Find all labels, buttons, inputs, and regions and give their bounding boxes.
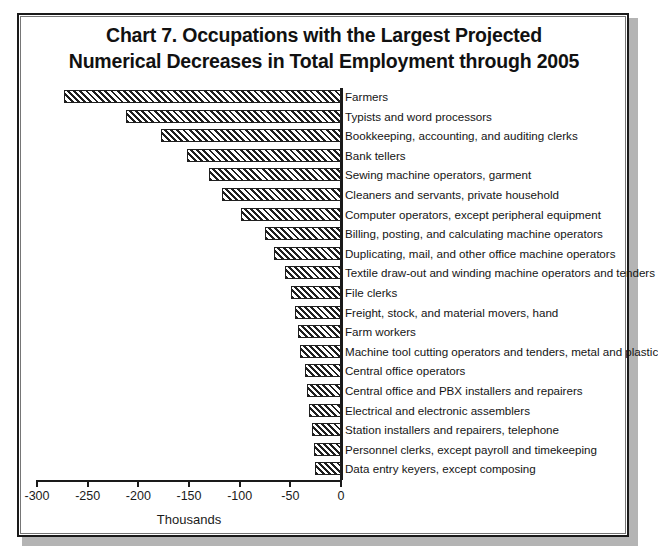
bar — [274, 247, 341, 260]
bar-row: Machine tool cutting operators and tende… — [37, 343, 341, 363]
x-tick — [289, 480, 291, 487]
bar-row: Cleaners and servants, private household — [37, 186, 341, 206]
bar-row: Data entry keyers, except composing — [37, 460, 341, 480]
bar — [315, 462, 341, 475]
bar-category-label: Sewing machine operators, garment — [345, 166, 531, 183]
bar — [241, 208, 341, 221]
bar — [300, 345, 341, 358]
bar-category-label: Cleaners and servants, private household — [345, 186, 559, 203]
bar-category-label: Station installers and repairers, teleph… — [345, 421, 559, 438]
bar-category-label: Billing, posting, and calculating machin… — [345, 225, 603, 242]
bar-category-label: Central office and PBX installers and re… — [345, 382, 583, 399]
bar-category-label: Duplicating, mail, and other office mach… — [345, 245, 615, 262]
chart-title: Chart 7. Occupations with the Largest Pr… — [30, 22, 618, 74]
bar — [161, 129, 341, 142]
bar-row: Computer operators, except peripheral eq… — [37, 206, 341, 226]
x-tick-label: -100 — [227, 489, 252, 503]
bar-row: Central office and PBX installers and re… — [37, 382, 341, 402]
bar — [209, 168, 341, 181]
x-tick — [137, 480, 139, 487]
bar-category-label: Farm workers — [345, 323, 416, 340]
bar-row: Billing, posting, and calculating machin… — [37, 225, 341, 245]
bar-category-label: Bookkeeping, accounting, and auditing cl… — [345, 127, 578, 144]
bar-row: Bank tellers — [37, 147, 341, 167]
bar-row: Duplicating, mail, and other office mach… — [37, 245, 341, 265]
chart-title-line-1: Chart 7. Occupations with the Largest Pr… — [30, 22, 618, 48]
bar — [295, 306, 341, 319]
bar-row: Textile draw-out and winding machine ope… — [37, 264, 341, 284]
bar-row: File clerks — [37, 284, 341, 304]
bar-category-label: Personnel clerks, except payroll and tim… — [345, 441, 597, 458]
x-tick — [239, 480, 241, 487]
bar — [187, 149, 341, 162]
bar — [291, 286, 341, 299]
bar-row: Personnel clerks, except payroll and tim… — [37, 441, 341, 461]
bar-category-label: Machine tool cutting operators and tende… — [345, 343, 658, 360]
bar — [265, 227, 341, 240]
bar-category-label: Freight, stock, and material movers, han… — [345, 304, 558, 321]
bar — [298, 325, 341, 338]
bar — [309, 404, 341, 417]
bar-category-label: Central office operators — [345, 362, 465, 379]
bar-row: Farm workers — [37, 323, 341, 343]
bar-row: Central office operators — [37, 362, 341, 382]
bar-category-label: Data entry keyers, except composing — [345, 460, 536, 477]
bar-row: Station installers and repairers, teleph… — [37, 421, 341, 441]
bar-row: Sewing machine operators, garment — [37, 166, 341, 186]
chart-title-line-2: Numerical Decreases in Total Employment … — [30, 48, 618, 74]
x-tick — [188, 480, 190, 487]
bar-row: Freight, stock, and material movers, han… — [37, 304, 341, 324]
x-tick-label: -150 — [176, 489, 201, 503]
bar — [285, 266, 341, 279]
x-tick-label: 0 — [338, 489, 345, 503]
x-tick-label: -250 — [75, 489, 100, 503]
bar-row: Bookkeeping, accounting, and auditing cl… — [37, 127, 341, 147]
x-tick-label: -200 — [126, 489, 151, 503]
x-axis-title: Thousands — [37, 512, 341, 527]
bar-category-label: Farmers — [345, 88, 388, 105]
bar-row: Typists and word processors — [37, 108, 341, 128]
bar — [305, 364, 341, 377]
bar-category-label: Computer operators, except peripheral eq… — [345, 206, 601, 223]
bar — [312, 423, 341, 436]
bar-category-label: Bank tellers — [345, 147, 406, 164]
x-tick — [87, 480, 89, 487]
bar-row: Electrical and electronic assemblers — [37, 402, 341, 422]
x-tick — [340, 480, 342, 487]
bar-category-label: Typists and word processors — [345, 108, 492, 125]
bar — [222, 188, 341, 201]
bar-category-label: Electrical and electronic assemblers — [345, 402, 530, 419]
bar — [314, 443, 341, 456]
x-tick-label: -300 — [24, 489, 49, 503]
bar — [126, 110, 341, 123]
bar-category-label: File clerks — [345, 284, 397, 301]
bar — [307, 384, 341, 397]
bar — [64, 90, 341, 103]
plot-area: -300-250-200-150-100-500 FarmersTypists … — [37, 88, 341, 480]
x-tick — [36, 480, 38, 487]
bar-category-label: Textile draw-out and winding machine ope… — [345, 264, 655, 281]
x-tick-label: -50 — [281, 489, 299, 503]
bar-row: Farmers — [37, 88, 341, 108]
